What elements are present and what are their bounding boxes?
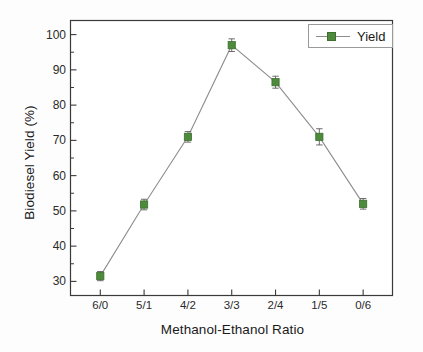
legend-marker-square	[327, 32, 336, 41]
data-point-marker[interactable]	[360, 200, 367, 207]
y-tick-label: 50	[36, 204, 66, 218]
y-tick-label: 70	[36, 133, 66, 147]
x-tick-label: 1/5	[299, 299, 339, 311]
data-point-marker[interactable]	[97, 273, 104, 280]
chart-figure: 30405060708090100 6/05/14/23/32/41/50/6 …	[0, 0, 423, 352]
legend-label-yield: Yield	[357, 29, 385, 44]
plot-frame	[71, 21, 393, 296]
data-point-marker[interactable]	[316, 133, 323, 140]
x-tick-label: 0/6	[343, 299, 383, 311]
data-point-marker[interactable]	[184, 133, 191, 140]
x-tick-label: 3/3	[212, 299, 252, 311]
x-tick-label: 6/0	[80, 299, 120, 311]
chart-legend[interactable]: Yield	[308, 24, 393, 48]
data-point-marker[interactable]	[228, 42, 235, 49]
x-axis-tick-labels: 6/05/14/23/32/41/50/6	[0, 299, 423, 317]
x-tick-label: 2/4	[256, 299, 296, 311]
y-tick-label: 80	[36, 98, 66, 112]
y-tick-label: 40	[36, 239, 66, 253]
x-tick-label: 5/1	[124, 299, 164, 311]
y-tick-label: 60	[36, 169, 66, 183]
x-axis-title: Methanol-Ethanol Ratio	[60, 322, 405, 337]
y-tick-label: 100	[36, 28, 66, 42]
x-tick-label: 4/2	[168, 299, 208, 311]
data-point-marker[interactable]	[141, 201, 148, 208]
y-tick-label: 90	[36, 63, 66, 77]
legend-line-sample	[316, 36, 350, 37]
y-axis-title: Biodiesel Yield (%)	[22, 48, 37, 278]
data-point-marker[interactable]	[272, 79, 279, 86]
y-tick-label: 30	[36, 274, 66, 288]
